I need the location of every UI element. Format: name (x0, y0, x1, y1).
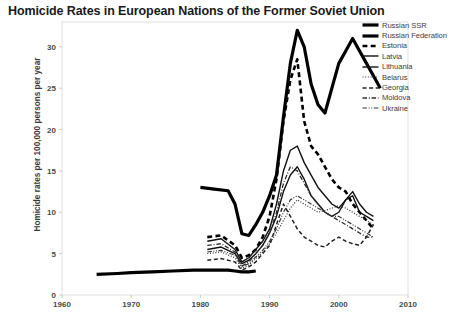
legend-swatch-icon (362, 62, 379, 72)
legend-item-lithuania[interactable]: Lithuania (362, 62, 447, 72)
legend-item-russian-ssr[interactable]: Russian SSR (362, 20, 447, 30)
legend-item-moldova[interactable]: Moldova (362, 93, 447, 103)
legend-label: Ukraine (382, 104, 408, 113)
legend-item-georgia[interactable]: Georgia (362, 82, 447, 92)
legend-swatch-icon (362, 51, 379, 61)
legend-item-belarus[interactable]: Belarus (362, 72, 447, 82)
legend-label: Russian SSR (382, 21, 427, 30)
legend-label: Estonia (382, 41, 407, 50)
legend-swatch-icon (362, 31, 379, 41)
legend-label: Moldova (382, 93, 410, 102)
series-line-russian-ssr (97, 270, 256, 274)
series-line-belarus (207, 200, 373, 269)
chart-legend: Russian SSRRussian FederationEstoniaLatv… (362, 20, 447, 114)
legend-item-russian-federation[interactable]: Russian Federation (362, 30, 447, 40)
legend-label: Georgia (382, 83, 409, 92)
legend-swatch-icon (362, 93, 379, 103)
legend-item-estonia[interactable]: Estonia (362, 41, 447, 51)
legend-item-latvia[interactable]: Latvia (362, 51, 447, 61)
legend-swatch-icon (362, 83, 379, 93)
legend-swatch-icon (362, 20, 379, 30)
series-line-georgia (207, 204, 373, 270)
series-line-ukraine (207, 196, 373, 267)
chart-figure: Homicide Rates in European Nations of th… (0, 0, 470, 316)
series-line-estonia (207, 59, 373, 258)
legend-label: Latvia (382, 52, 402, 61)
legend-swatch-icon (362, 103, 379, 113)
legend-item-ukraine[interactable]: Ukraine (362, 103, 447, 113)
legend-label: Lithuania (382, 62, 412, 71)
legend-swatch-icon (362, 41, 379, 51)
legend-swatch-icon (362, 72, 379, 82)
legend-label: Russian Federation (382, 31, 447, 40)
legend-label: Belarus (382, 73, 407, 82)
